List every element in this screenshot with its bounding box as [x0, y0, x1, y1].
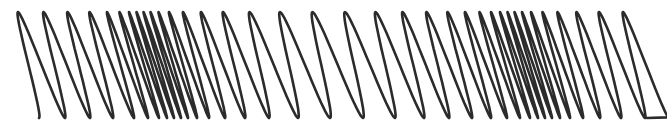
- spring-coil-icon: [0, 0, 667, 131]
- spring-illustration: Helical spring (slinky) illustrating a l…: [0, 0, 667, 131]
- spring-coil-path: [18, 12, 667, 118]
